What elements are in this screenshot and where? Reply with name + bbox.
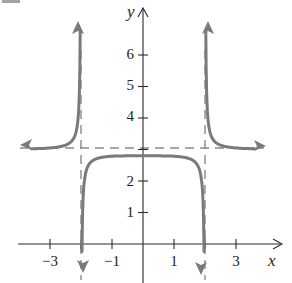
left-top-arrowhead-icon [72, 21, 84, 34]
y-tick-label: 5 [127, 77, 135, 93]
x-tick-label: 3 [232, 253, 240, 269]
x-tick-label: −1 [104, 253, 120, 269]
y-tick-label: 2 [127, 173, 135, 189]
left-branch-curve [31, 30, 80, 149]
x-tick-label: −3 [42, 253, 58, 269]
y-tick-label: 1 [127, 204, 135, 220]
x-tick-label: 1 [170, 253, 178, 269]
x-axis-label: x [267, 251, 276, 270]
right-top-arrowhead-icon [202, 21, 214, 34]
y-axis-label: y [125, 2, 135, 21]
right-arrowhead-icon [254, 140, 266, 151]
function-graph: −3 −1 1 3 1 2 4 5 6 x y [0, 0, 292, 283]
right-branch-curve [206, 30, 255, 149]
left-bottom-arrowhead-icon [77, 260, 89, 273]
y-tick-label: 4 [127, 108, 135, 124]
y-tick-label: 6 [127, 46, 135, 62]
